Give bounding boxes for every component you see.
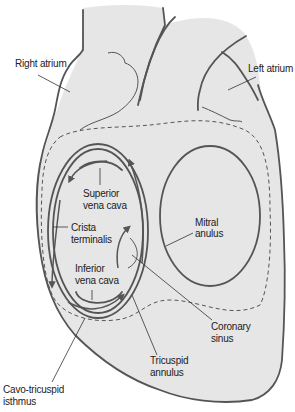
label-crista-2: terminalis: [71, 234, 112, 245]
heart-diagram: Right atrium Left atrium Superior vena c…: [0, 0, 295, 412]
label-right-atrium: Right atrium: [15, 58, 67, 69]
label-ivc-1: Inferior: [75, 263, 105, 274]
label-isthmus-1: Cavo-tricuspid: [3, 384, 64, 395]
label-coronary-sinus-2: sinus: [211, 333, 234, 344]
label-crista-1: Crista: [71, 222, 97, 233]
label-left-atrium: Left atrium: [248, 63, 293, 74]
label-tricuspid-1: Tricuspid: [150, 355, 188, 366]
label-ivc-2: vena cava: [75, 275, 119, 286]
label-svc-2: vena cava: [83, 200, 127, 211]
label-mitral-2: anulus: [195, 228, 223, 239]
label-coronary-sinus-1: Coronary: [211, 321, 251, 332]
label-tricuspid-2: annulus: [150, 367, 184, 378]
leader-right-atrium: [38, 75, 70, 92]
label-svc-1: Superior: [83, 188, 120, 199]
label-isthmus-2: isthmus: [3, 396, 36, 407]
label-mitral-1: Mitral: [195, 217, 218, 228]
